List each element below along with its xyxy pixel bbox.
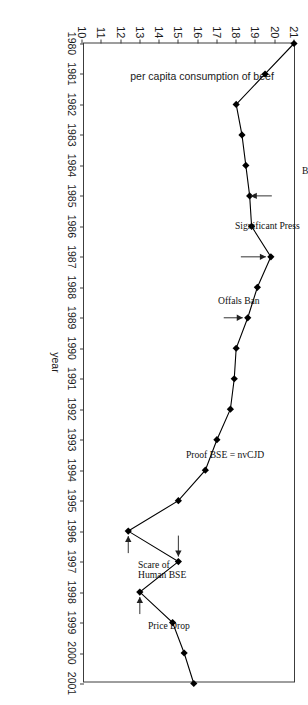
y-axis-tick-label: 12 [115, 26, 127, 38]
x-axis-tick-label: 1991 [66, 367, 78, 390]
annotation-label-offals-ban: Offals Ban [218, 295, 260, 305]
x-axis-tick-label: 1998 [66, 580, 78, 603]
y-axis-tick-label: 11 [95, 27, 107, 38]
data-point-marker[interactable] [242, 161, 249, 168]
y-axis-tick-label: 15 [172, 26, 184, 38]
data-point-marker[interactable] [213, 436, 220, 443]
data-point-marker[interactable] [238, 131, 245, 138]
data-point-marker[interactable] [202, 466, 209, 473]
x-axis-tick-label: 1993 [66, 428, 78, 451]
x-axis-tick-label: 1989 [66, 306, 78, 329]
y-axis-tick-label: 19 [249, 26, 261, 38]
plot-area-frame: per capita consumption of beef year 2120… [83, 42, 295, 682]
y-axis-tick-mark [197, 39, 198, 43]
y-axis-tick-mark [178, 39, 179, 43]
x-axis-tick-label: 1995 [66, 488, 78, 511]
y-axis-tick-label: 20 [269, 26, 281, 38]
x-axis-tick-label: 1980 [66, 31, 78, 54]
y-axis-tick-label: 13 [134, 26, 146, 38]
x-axis-tick-label: 1987 [66, 245, 78, 268]
y-axis-tick-label: 16 [192, 26, 204, 38]
data-point-marker[interactable] [231, 375, 238, 382]
x-axis-tick-label: 2001 [66, 671, 78, 694]
annotation-arrow-price-drop [137, 597, 143, 614]
data-point-marker[interactable] [254, 283, 261, 290]
x-axis-tick-label: 1986 [66, 214, 78, 237]
x-axis-tick-label: 1990 [66, 336, 78, 359]
y-axis-tick-label: 14 [153, 26, 165, 38]
y-axis-tick-mark [159, 39, 160, 43]
annotation-label-scare-human-bse: Scare ofHuman BSE [138, 559, 186, 579]
y-axis-tick-label: 17 [211, 26, 223, 38]
x-axis-tick-label: 1999 [66, 610, 78, 633]
data-point-marker[interactable] [190, 679, 197, 686]
annotation-arrow-bse-discovered [251, 192, 272, 198]
data-point-marker[interactable] [244, 314, 251, 321]
y-axis-tick-mark [101, 39, 102, 43]
x-axis-tick-label: 1985 [66, 184, 78, 207]
annotation-text-line: Scare of [138, 559, 186, 569]
y-axis-tick-mark [82, 39, 83, 43]
x-axis-tick-label: 1988 [66, 275, 78, 298]
y-axis-tick-mark [216, 39, 217, 43]
annotation-label-price-drop: Price Drop [148, 620, 190, 630]
x-axis-tick-label: 1997 [66, 549, 78, 572]
annotation-label-bse-discovered: BSE Discovered [302, 165, 308, 175]
annotation-arrow-offals-ban [224, 314, 243, 320]
chart-figure: per capita consumption of beef year 2120… [0, 0, 308, 705]
y-axis-tick-label: 21 [288, 26, 300, 38]
x-axis-tick-label: 1994 [66, 458, 78, 481]
y-axis-tick-mark [274, 39, 275, 43]
x-axis-tick-label: 1992 [66, 397, 78, 420]
y-axis-tick-mark [236, 39, 237, 43]
x-axis-tick-label: 1983 [66, 123, 78, 146]
x-axis-title: year [50, 43, 62, 681]
annotation-label-proof-bse-nvcjd: Proof BSE = nvCJD [186, 449, 264, 459]
x-axis-tick-label: 1984 [66, 153, 78, 176]
annotation-arrow-proof-bse-nvcjd [175, 535, 181, 556]
annotation-arrow-significant-press [241, 253, 266, 259]
y-axis-tick-mark [120, 39, 121, 43]
data-point-marker[interactable] [181, 649, 188, 656]
annotation-arrow-scare-human-bse [125, 536, 131, 553]
annotation-text-line: Human BSE [138, 569, 186, 579]
annotation-label-significant-press: Significant Press [235, 220, 300, 230]
x-axis-tick-label: 2000 [66, 641, 78, 664]
x-axis-tick-label: 1981 [66, 62, 78, 85]
y-axis-tick-mark [255, 39, 256, 43]
data-series-layer [82, 43, 294, 683]
series-line [128, 43, 294, 683]
rotated-figure-container: per capita consumption of beef year 2120… [0, 0, 308, 705]
x-axis-tick-label: 1982 [66, 92, 78, 115]
x-axis-tick-label: 1996 [66, 519, 78, 542]
y-axis-tick-mark [139, 39, 140, 43]
y-axis-tick-label: 18 [230, 26, 242, 38]
data-point-marker[interactable] [233, 344, 240, 351]
data-point-marker[interactable] [227, 405, 234, 412]
